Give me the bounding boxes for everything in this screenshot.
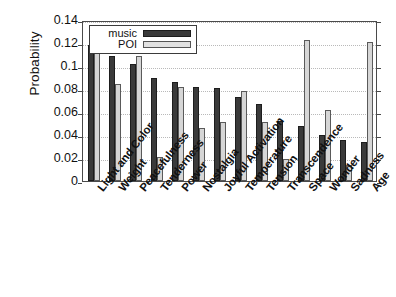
plot-area: music POI <box>82 21 377 182</box>
legend-label-poi: POI <box>95 39 143 50</box>
bar-poi <box>94 43 100 181</box>
axis-tick <box>78 45 82 46</box>
legend: music POI <box>89 25 197 54</box>
axis-tick <box>78 91 82 92</box>
legend-swatch-poi <box>143 41 191 48</box>
axis-tick <box>78 22 82 23</box>
bar-group <box>336 22 357 181</box>
bar-poi <box>304 40 310 181</box>
legend-swatch-music <box>143 30 191 37</box>
y-tick-label: 0.02 <box>32 152 78 164</box>
bar-group <box>209 22 230 181</box>
y-tick-label: 0.14 <box>32 14 78 26</box>
bar-group <box>231 22 252 181</box>
y-tick-label: 0.12 <box>32 37 78 49</box>
legend-item-music: music <box>95 28 191 39</box>
axis-tick <box>78 137 82 138</box>
axis-tick <box>377 183 381 184</box>
y-tick-label: 0.08 <box>32 83 78 95</box>
bar-poi <box>283 159 289 181</box>
bar-group <box>273 22 294 181</box>
axis-tick <box>78 160 82 161</box>
legend-item-poi: POI <box>95 39 191 50</box>
bar-poi <box>367 42 373 181</box>
bar-poi <box>199 128 205 181</box>
y-tick-label: 0.04 <box>32 129 78 141</box>
bar-group <box>357 22 378 181</box>
axis-tick <box>78 68 82 69</box>
bar-group <box>294 22 315 181</box>
bar-poi <box>325 110 331 181</box>
bar-group <box>315 22 336 181</box>
bar-poi <box>262 122 268 181</box>
bar-poi <box>157 157 163 181</box>
y-tick-label: 0.1 <box>32 60 78 72</box>
bar-poi <box>136 56 142 181</box>
axis-tick <box>78 114 82 115</box>
bar-poi <box>115 84 121 181</box>
bar-poi <box>241 91 247 181</box>
bar-poi <box>346 165 352 181</box>
y-tick-label: 0.06 <box>32 106 78 118</box>
axis-tick <box>78 183 82 184</box>
bar-poi <box>178 87 184 181</box>
bar-group <box>252 22 273 181</box>
bar-chart-figure: Probability 00.020.040.060.080.10.120.14… <box>0 0 396 297</box>
bar-poi <box>220 122 226 181</box>
y-axis-tick-labels: 00.020.040.060.080.10.120.14 <box>28 0 78 297</box>
y-tick-label: 0 <box>32 175 78 187</box>
